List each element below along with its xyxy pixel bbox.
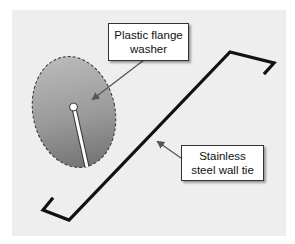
tie-label-line2: steel wall tie — [182, 163, 263, 177]
washer-label-line2: washer — [109, 42, 188, 56]
plastic-flange-washer — [22, 49, 125, 176]
washer-label: Plastic flange washer — [108, 23, 189, 61]
tie-label-line1: Stainless — [182, 149, 263, 163]
tie-label: Stainless steel wall tie — [181, 145, 264, 181]
washer-label-line1: Plastic flange — [109, 28, 188, 42]
tie-arrow — [158, 142, 181, 158]
washer-hole — [70, 103, 78, 111]
